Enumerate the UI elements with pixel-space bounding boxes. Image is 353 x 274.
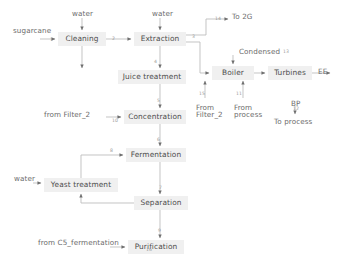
edge-label-5: 5 <box>157 99 160 104</box>
node-separation-label: Separation <box>140 199 181 206</box>
terminal-ee: EE <box>318 68 327 75</box>
terminal-to-2g: To 2G <box>232 13 253 20</box>
node-purification-label: Purification <box>135 243 178 250</box>
edge-label-4: 4 <box>154 60 157 65</box>
edge-label-1: 1 <box>50 38 53 43</box>
edge-label-12: 12 <box>293 107 299 112</box>
node-purification[interactable]: Purification <box>128 240 184 254</box>
edge-label-3: 3 <box>192 35 195 40</box>
node-cleaning-label: Cleaning <box>65 35 98 42</box>
node-boiler[interactable]: Boiler <box>212 66 254 80</box>
terminal-from-filter2-concentration: from Filter_2 <box>44 111 90 118</box>
terminal-from-filter2-boiler: From Filter_2 <box>196 104 223 118</box>
node-turbines[interactable]: Turbines <box>268 66 312 80</box>
node-concentration-label: Concentration <box>128 113 182 120</box>
node-cleaning[interactable]: Cleaning <box>58 32 106 46</box>
node-extraction[interactable]: Extraction <box>134 32 186 46</box>
node-fermentation[interactable]: Fermentation <box>126 148 186 162</box>
edge-label-6: 6 <box>157 138 160 143</box>
process-flow-diagram: Cleaning Extraction Juice treatment Conc… <box>0 0 353 274</box>
edge-label-7: 7 <box>159 186 162 191</box>
node-separation[interactable]: Separation <box>134 196 188 210</box>
edge-label-10: 10 <box>112 119 118 124</box>
edge-label-14: 14 <box>215 17 221 22</box>
edge-label-13: 13 <box>283 50 289 55</box>
terminal-from-process: From process <box>234 104 262 118</box>
node-boiler-label: Boiler <box>222 69 244 76</box>
edge-label-15: 15 <box>199 92 205 97</box>
edge-label-2: 2 <box>112 37 115 42</box>
terminal-from-c5-fermentation: from C5_fermentation <box>38 239 119 246</box>
node-fermentation-label: Fermentation <box>131 151 182 158</box>
node-yeast-treatment-label: Yeast treatment <box>51 181 111 188</box>
terminal-water-yeast: water <box>14 175 35 182</box>
edge-label-16: 16 <box>146 248 152 253</box>
node-juice-treatment[interactable]: Juice treatment <box>118 70 186 84</box>
terminal-water-cleaning: water <box>72 10 93 17</box>
node-turbines-label: Turbines <box>274 69 306 76</box>
edge-label-11: 11 <box>236 92 242 97</box>
terminal-water-extraction: water <box>152 10 173 17</box>
terminal-condensed: Condensed <box>239 48 280 55</box>
terminal-sugarcane: sugarcane <box>13 27 51 34</box>
node-yeast-treatment[interactable]: Yeast treatment <box>44 178 118 192</box>
edge-label-9: 9 <box>158 229 161 234</box>
node-juice-treatment-label: Juice treatment <box>123 73 181 80</box>
terminal-to-process: To process <box>274 118 312 125</box>
edge-label-8: 8 <box>110 149 113 154</box>
node-concentration[interactable]: Concentration <box>124 110 186 124</box>
node-extraction-label: Extraction <box>141 35 180 42</box>
